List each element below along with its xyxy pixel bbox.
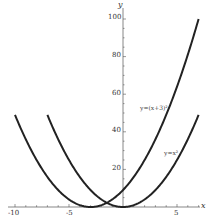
y-tick-label: 20: [112, 164, 121, 172]
curve-x-plus-3-squared: [15, 19, 199, 207]
x-tick-label: 5: [174, 209, 178, 217]
y-tick-label: 60: [112, 89, 121, 97]
legend-label-x-squared: y=x²: [164, 149, 178, 156]
axes: [8, 8, 200, 207]
x-axis-label: x: [201, 201, 206, 210]
legend-label-x-plus-3-squared: y=(x+3)²: [140, 104, 168, 111]
tick-marks: [15, 19, 199, 207]
curves: [15, 19, 199, 207]
parabola-plot: [0, 0, 211, 217]
y-tick-label: 80: [112, 51, 121, 59]
x-tick-label: -10: [8, 209, 19, 217]
x-tick-label: -5: [66, 209, 73, 217]
y-axis-label: y: [118, 0, 123, 9]
y-tick-label: 40: [112, 126, 121, 134]
y-tick-label: 100: [108, 13, 121, 21]
